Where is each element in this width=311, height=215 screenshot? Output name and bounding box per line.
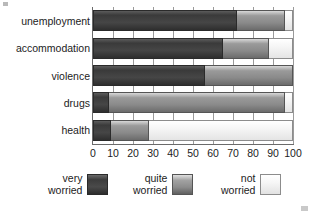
plot-area [93, 7, 293, 144]
gridline [293, 7, 294, 144]
bar-segment-very-worried [93, 38, 223, 59]
bar-segment-not-worried [285, 92, 293, 113]
bar-segment-quite-worried [223, 38, 269, 59]
bar-segment-quite-worried [109, 92, 285, 113]
legend-label: quiteworried [133, 173, 167, 196]
category-label: drugs [0, 97, 90, 109]
bar-segment-very-worried [93, 65, 205, 86]
bar-row [93, 38, 293, 59]
very-worried-swatch [87, 174, 108, 195]
legend-label-line2: worried [133, 185, 167, 197]
legend-item: quiteworried [133, 173, 193, 196]
legend-item: veryworried [48, 173, 108, 196]
legend-label-line2: worried [48, 185, 82, 197]
legend-label-line2: worried [221, 185, 255, 197]
bar-row [93, 120, 293, 141]
bar-segment-not-worried [285, 10, 293, 31]
scan-artifact [3, 2, 8, 6]
stacked-bar-chart: unemploymentaccommodationviolencedrugshe… [0, 0, 311, 215]
quite-worried-swatch [172, 174, 193, 195]
legend-label-line1: quite [133, 173, 167, 185]
legend-item: notworried [221, 173, 281, 196]
bar-row [93, 10, 293, 31]
bar-segment-quite-worried [205, 65, 293, 86]
bar-segment-very-worried [93, 92, 109, 113]
not-worried-swatch [260, 174, 281, 195]
x-axis-line [92, 144, 294, 145]
bar-row [93, 92, 293, 113]
bar-row [93, 65, 293, 86]
category-label: health [0, 124, 90, 136]
category-label: accommodation [0, 42, 90, 54]
bar-segment-very-worried [93, 10, 237, 31]
bar-segment-not-worried [269, 38, 293, 59]
category-label: unemployment [0, 15, 90, 27]
bar-segment-quite-worried [237, 10, 285, 31]
bar-segment-not-worried [149, 120, 293, 141]
category-label: violence [0, 70, 90, 82]
x-tick-label: 100 [281, 147, 305, 159]
legend-label: veryworried [48, 173, 82, 196]
bar-segment-very-worried [93, 120, 111, 141]
legend-label-line1: not [221, 173, 255, 185]
chart-legend: veryworriedquiteworriednotworried [0, 173, 311, 213]
bar-segment-quite-worried [111, 120, 149, 141]
legend-label-line1: very [48, 173, 82, 185]
legend-label: notworried [221, 173, 255, 196]
